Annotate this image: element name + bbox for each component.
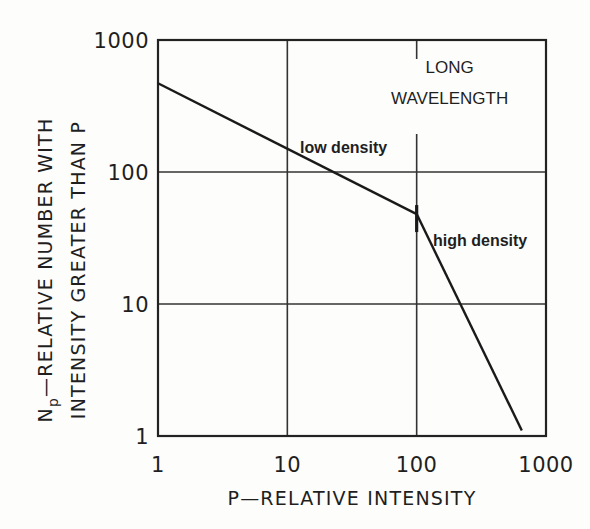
y-axis-title-sub: p — [45, 397, 61, 407]
y-tick-labels: 1101001000 — [94, 29, 149, 449]
y-axis-title-line1: Np—RELATIVE NUMBER WITH — [34, 118, 61, 423]
x-tick-label-100: 100 — [396, 453, 438, 477]
annotation-low-density: low density — [300, 139, 387, 156]
y-tick-label-10: 10 — [121, 293, 149, 317]
y-axis-title-line2: INTENSITY GREATER THAN P — [67, 121, 89, 419]
annotation-high-density: high density — [433, 232, 527, 249]
x-tick-labels: 1101001000 — [151, 453, 574, 477]
x-tick-label-1000: 1000 — [518, 453, 573, 477]
annotation-long: LONG — [426, 58, 474, 77]
annotation-wavelength: WAVELENGTH — [391, 89, 508, 108]
y-axis-title-main: N — [34, 407, 56, 422]
series-group — [158, 83, 522, 430]
annotations: LONGWAVELENGTHlow densityhigh density — [300, 58, 527, 249]
x-tick-label-1: 1 — [151, 453, 165, 477]
svg-text:Np—RELATIVE NUMBER WITH: Np—RELATIVE NUMBER WITH — [34, 118, 61, 423]
x-axis-title: P—RELATIVE INTENSITY — [228, 487, 477, 509]
y-axis-title-rest: —RELATIVE NUMBER WITH — [34, 118, 56, 397]
x-tick-label-10: 10 — [273, 453, 301, 477]
y-tick-label-1: 1 — [135, 425, 149, 449]
log-log-chart: 1101001000 1101001000 P—RELATIVE INTENSI… — [0, 0, 590, 529]
y-tick-label-100: 100 — [107, 161, 149, 185]
y-tick-label-1000: 1000 — [94, 29, 149, 53]
svg-text:INTENSITY GREATER THAN P: INTENSITY GREATER THAN P — [67, 121, 89, 419]
